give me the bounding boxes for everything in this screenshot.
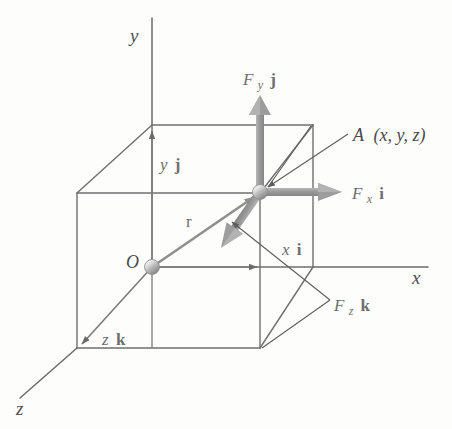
axis-lines — [20, 18, 428, 398]
figure-canvas: y x z O A (x, y, z) r y j x i — [0, 0, 452, 429]
force-y-symbol: F — [242, 70, 254, 89]
x-axis-label: x — [411, 267, 421, 288]
box-edge-connect-bottomright — [260, 267, 313, 348]
svg-text:x i: x i — [281, 240, 302, 259]
force-x-arrow — [260, 183, 342, 201]
point-a-leader-1 — [268, 134, 348, 187]
force-z-leader-secondary — [262, 300, 330, 348]
force-y-unit: j — [269, 70, 276, 89]
point-a-leader-2 — [268, 126, 311, 187]
svg-text:F y j: F y j — [242, 70, 276, 93]
point-a-label-coords: (x, y, z) — [374, 125, 426, 146]
force-x-symbol: F — [351, 184, 363, 203]
force-x-unit: i — [379, 184, 384, 203]
force-x-label: F x i — [351, 184, 384, 207]
force-y-arrow — [249, 95, 271, 192]
y-component-label: y j — [158, 155, 180, 174]
svg-text:F x i: F x i — [351, 184, 384, 207]
svg-text:A (x, y, z): A (x, y, z) — [352, 125, 425, 146]
force-y-subscript: y — [257, 78, 264, 92]
x-component-unit: i — [297, 240, 302, 259]
force-z-label: F z k — [333, 296, 371, 319]
svg-text:y j: y j — [158, 155, 180, 174]
svg-text:z k: z k — [101, 330, 126, 349]
force-z-leader — [232, 222, 330, 300]
y-component-value: y — [158, 155, 168, 174]
force-z-symbol: F — [333, 296, 345, 315]
z-component-label: z k — [101, 330, 126, 349]
box-edge-connect-topleft — [77, 125, 152, 193]
coordinate-system-diagram: y x z O A (x, y, z) r y j x i — [0, 0, 452, 429]
origin-label: O — [126, 252, 139, 272]
point-a-label-name: A — [352, 125, 365, 145]
y-component-unit: j — [174, 155, 181, 174]
force-y-label: F y j — [242, 70, 276, 93]
position-vector-label: r — [186, 212, 192, 231]
force-z-leader-line — [232, 222, 330, 348]
x-component-value: x — [281, 240, 290, 259]
z-axis-label: z — [15, 398, 24, 419]
origin-node — [145, 260, 160, 275]
force-x-subscript: x — [366, 192, 373, 206]
point-a-label: A (x, y, z) — [352, 125, 425, 146]
z-component-unit: k — [116, 330, 126, 349]
z-axis-line — [20, 348, 77, 398]
point-a-leader-lines — [268, 126, 348, 187]
svg-text:F z k: F z k — [333, 296, 371, 319]
z-component-value: z — [101, 330, 109, 349]
force-z-subscript: z — [348, 304, 354, 318]
y-axis-label: y — [128, 25, 139, 46]
point-a-node — [253, 185, 268, 200]
force-z-unit: k — [361, 296, 371, 315]
x-component-label: x i — [281, 240, 302, 259]
